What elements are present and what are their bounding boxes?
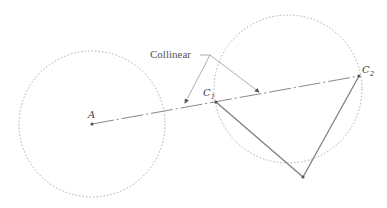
label-c1-text: C — [203, 87, 211, 98]
label-c2-sub: 2 — [370, 70, 374, 78]
label-c1-sub: 1 — [211, 93, 215, 101]
label-a-text: A — [88, 109, 95, 120]
label-a: A — [88, 110, 95, 120]
label-c2: C2 — [362, 65, 374, 78]
point-c2 — [357, 74, 360, 77]
label-c1: C1 — [203, 88, 215, 101]
edge-c1-bottom — [216, 102, 303, 177]
point-bottom — [301, 175, 304, 178]
collinear-label: Collinear — [150, 49, 191, 60]
label-c2-text: C — [362, 64, 370, 75]
callout-arrow-right — [210, 55, 259, 92]
diagram-canvas — [0, 0, 387, 208]
collinear-line — [92, 76, 359, 124]
point-a — [90, 122, 93, 125]
edge-bottom-c2 — [303, 76, 359, 177]
